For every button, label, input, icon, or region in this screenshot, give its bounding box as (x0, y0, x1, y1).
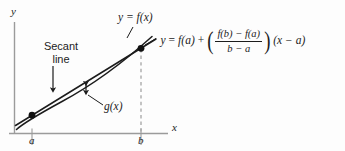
equation-factor-x-minus-a: (x − a) (273, 35, 305, 47)
equation-plus-sign: + (198, 35, 205, 47)
equation-open-paren: ( (207, 31, 213, 51)
equation-difference-quotient: f(b) − f(a) b − a (215, 28, 262, 53)
equation-equals-sign: = (169, 35, 176, 47)
point-b (138, 45, 145, 52)
secant-line-diagram: y x a b y = f(x) g(x) Secant line y = f(… (0, 0, 345, 151)
equation-denominator: b − a (225, 43, 252, 54)
x-tick-label-b: b (138, 135, 144, 146)
curve-label: y = f(x) (118, 12, 153, 24)
gap-function-label: g(x) (104, 101, 123, 113)
secant-line-annotation: Secant line (31, 40, 91, 65)
x-axis-label: x (172, 122, 177, 133)
curve-label-leader (127, 27, 133, 38)
secant-annotation-line-2: line (31, 53, 91, 66)
equation-term-fa: f(a) (178, 35, 195, 47)
x-tick-label-a: a (29, 135, 35, 146)
equation-numerator: f(b) − f(a) (215, 28, 262, 39)
secant-annotation-line-1: Secant (31, 40, 91, 53)
equation-close-paren: ) (264, 31, 270, 51)
equation-lhs: y (161, 35, 166, 47)
point-a (29, 112, 36, 119)
secant-line-equation: y = f(a) + ( f(b) − f(a) b − a ) (x − a) (159, 28, 307, 54)
fraction-bar (215, 41, 262, 42)
y-axis-label: y (11, 6, 16, 17)
gap-leader-line (88, 95, 103, 105)
